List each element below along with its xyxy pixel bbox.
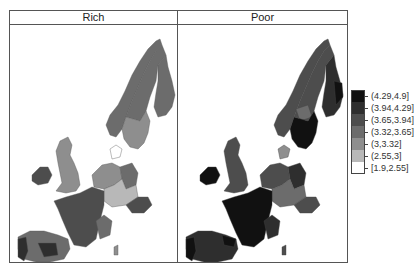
legend-tick [365, 144, 368, 145]
legend-swatch-5 [351, 138, 365, 150]
legend-swatch-4 [351, 126, 365, 138]
legend-label-5: (3,3.32] [371, 139, 402, 149]
legend-swatch-1 [351, 90, 365, 102]
region-north-spain [222, 235, 236, 247]
legend-swatch-6 [351, 150, 365, 162]
region-denmark [278, 145, 290, 159]
legend-tick [365, 120, 368, 121]
legend-tick [365, 96, 368, 97]
legend-label-4: (3.32,3.65] [371, 127, 414, 137]
panel-poor: Poor [177, 10, 348, 263]
region-great-britain [224, 137, 248, 193]
region-ireland [32, 167, 52, 185]
legend-tick [365, 156, 368, 157]
region-denmark [110, 145, 122, 159]
legend-swatch-2 [351, 102, 365, 114]
legend-label-3: (3.65,3.94] [371, 115, 414, 125]
legend-label-6: (2.55,3] [371, 151, 402, 161]
map-rich [10, 25, 177, 262]
legend-swatch-7 [351, 162, 365, 174]
legend-label-2: (3.94,4.29] [371, 103, 414, 113]
region-corsica [114, 245, 118, 255]
map-poor [178, 25, 347, 262]
legend-label-1: (4.29,4.9] [371, 91, 409, 101]
legend-swatch-3 [351, 114, 365, 126]
panel-strip-rich: Rich [10, 11, 177, 25]
legend-tick [365, 132, 368, 133]
panel-strip-poor: Poor [178, 11, 347, 25]
region-corsica [282, 245, 286, 255]
panel-rich: Rich [9, 10, 178, 263]
region-great-britain [56, 137, 80, 193]
legend-tick [365, 168, 368, 169]
legend-label-7: [1.9,2.55] [371, 163, 409, 173]
region-ireland [200, 167, 220, 185]
legend-tick [365, 108, 368, 109]
